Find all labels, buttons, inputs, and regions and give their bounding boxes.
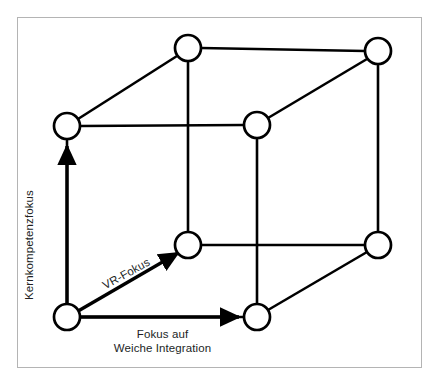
node-back-bottom-left — [175, 232, 201, 258]
axis-label-line-2: Weiche Integration — [95, 341, 230, 355]
axis-label-fokus-auf-weiche-integration: Fokus auf Weiche Integration — [95, 327, 230, 355]
edge-depth-top-right — [268, 59, 367, 118]
axis-label-line-1: Fokus auf — [95, 327, 230, 341]
arrow-diagonal-vr-fokus — [73, 253, 178, 314]
node-back-bottom-right — [365, 232, 391, 258]
edge-front-top-horizontal — [80, 125, 244, 126]
edge-back-top-horizontal — [201, 48, 365, 51]
figure-root: Kernkompetenzfokus VR-Fokus Fokus auf We… — [0, 0, 439, 383]
node-back-top-right — [365, 38, 391, 64]
node-front-top-right — [244, 112, 270, 138]
node-front-bottom-left — [54, 304, 80, 330]
axis-label-kernkompetenzfokus: Kernkompetenzfokus — [22, 190, 36, 300]
node-front-top-left — [54, 113, 80, 139]
edge-depth-top-left — [78, 56, 177, 119]
edge-depth-bottom-right — [268, 252, 367, 310]
node-back-top-left — [175, 35, 201, 61]
node-front-bottom-right — [244, 304, 270, 330]
cube-diagram-canvas — [0, 0, 439, 383]
axis-arrows — [67, 146, 239, 317]
